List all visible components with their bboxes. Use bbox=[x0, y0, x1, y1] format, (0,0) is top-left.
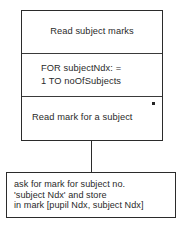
for-loop-line-1: FOR subjectNdx: = bbox=[41, 63, 121, 75]
note-box: ask for mark for subject no. 'subject Nd… bbox=[6, 172, 176, 218]
note-line-3: in mark [pupil Ndx, subject Ndx] bbox=[14, 200, 168, 211]
iteration-asterisk-icon bbox=[152, 102, 155, 105]
main-structure-box: Read subject marks FOR subjectNdx: = 1 T… bbox=[21, 10, 163, 141]
read-subject-marks-label: Read subject marks bbox=[50, 26, 134, 38]
connector-line bbox=[91, 141, 92, 173]
note-line-1: ask for mark for subject no. bbox=[14, 179, 168, 190]
section-read-subject-marks: Read subject marks bbox=[22, 11, 162, 54]
structure-diagram: Read subject marks FOR subjectNdx: = 1 T… bbox=[0, 0, 183, 233]
note-line-2: 'subject Ndx' and store bbox=[14, 190, 168, 201]
section-read-mark-for-subject: Read mark for a subject bbox=[22, 97, 162, 139]
read-mark-for-subject-label: Read mark for a subject bbox=[32, 112, 133, 124]
for-loop-line-2: 1 TO noOfSubjects bbox=[41, 76, 121, 88]
section-for-loop: FOR subjectNdx: = 1 TO noOfSubjects bbox=[22, 54, 162, 97]
